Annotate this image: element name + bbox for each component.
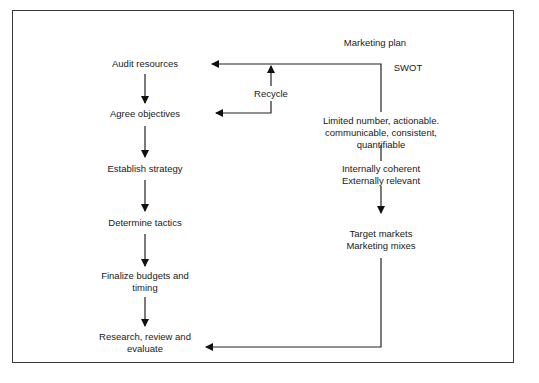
targets-text: Target markets Marketing mixes xyxy=(346,228,415,252)
diagram-title: Marketing plan xyxy=(344,37,406,49)
step-establish-strategy: Establish strategy xyxy=(108,163,183,175)
criteria-line3: quantifiable xyxy=(323,139,439,151)
step-determine-tactics: Determine tactics xyxy=(108,217,181,229)
step-finalize-budgets: Finalize budgets and timing xyxy=(101,270,189,294)
step-research-review-line2: evaluate xyxy=(99,343,191,355)
coherence-text: Internally coherent Externally relevant xyxy=(342,163,420,187)
step-finalize-budgets-line2: timing xyxy=(101,282,189,294)
coherence-line2: Externally relevant xyxy=(342,175,420,187)
connectors xyxy=(0,0,539,383)
step-finalize-budgets-line1: Finalize budgets and xyxy=(101,270,189,282)
targets-line1: Target markets xyxy=(346,228,415,240)
swot-label: SWOT xyxy=(394,62,423,74)
arrow-swot-to-audit xyxy=(212,64,381,112)
step-research-review: Research, review and evaluate xyxy=(99,331,191,355)
arrow-targets-to-research xyxy=(206,258,381,347)
coherence-line1: Internally coherent xyxy=(342,163,420,175)
step-audit-resources: Audit resources xyxy=(112,58,178,70)
criteria-line2: communicable, consistent, xyxy=(323,127,439,139)
recycle-label: Recycle xyxy=(254,88,288,100)
step-agree-objectives: Agree objectives xyxy=(110,108,180,120)
step-research-review-line1: Research, review and xyxy=(99,331,191,343)
criteria-text: Limited number, actionable. communicable… xyxy=(323,115,439,151)
criteria-line1: Limited number, actionable. xyxy=(323,115,439,127)
arrow-recycle-to-objectives xyxy=(216,101,271,113)
targets-line2: Marketing mixes xyxy=(346,240,415,252)
